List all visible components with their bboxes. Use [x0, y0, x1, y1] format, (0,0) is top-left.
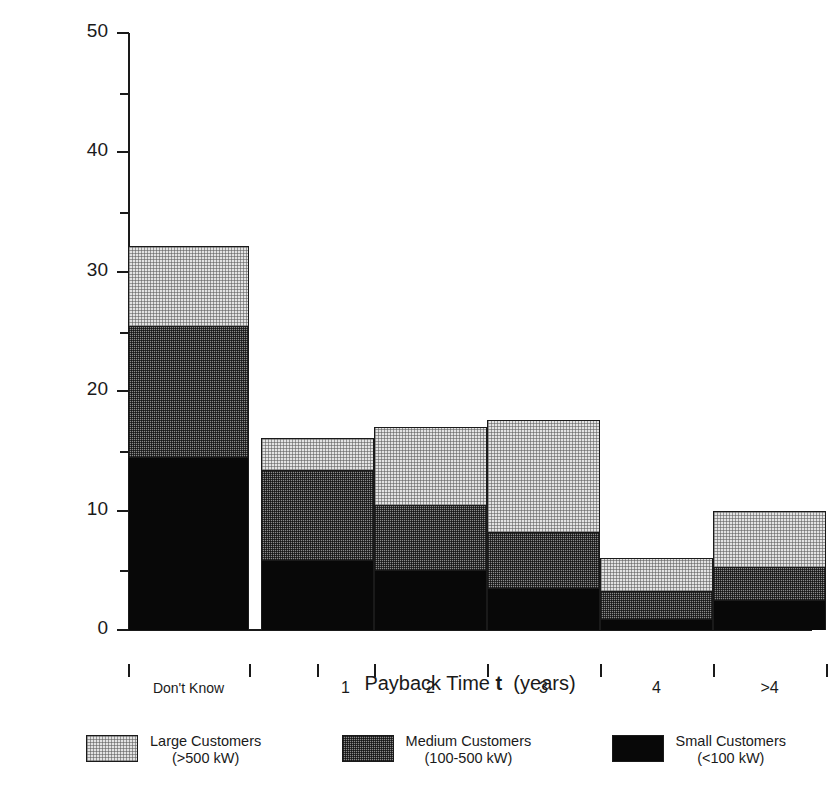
bar-year-3[interactable]	[487, 420, 600, 630]
legend-sublabel-medium: (100-500 kW)	[406, 750, 532, 767]
chart-legend: Large Customers (>500 kW) Medium Custome…	[86, 733, 786, 781]
bar-year-2[interactable]	[374, 427, 487, 630]
segment-medium-year-gt4	[713, 567, 826, 600]
segment-medium-year-4	[600, 591, 713, 620]
bar-year-1[interactable]	[261, 438, 374, 630]
y-tick-label-10: 10	[87, 498, 108, 520]
legend-sublabel-large: (>500 kW)	[150, 750, 261, 767]
segment-medium-dont-know	[128, 326, 249, 457]
x-axis-title: Payback Time t (years)	[128, 672, 812, 695]
legend-label-small: Small Customers	[676, 733, 786, 750]
small-swatch-icon	[612, 735, 664, 762]
segment-small-year-3	[487, 588, 600, 630]
segment-medium-year-3	[487, 532, 600, 588]
bar-dont-know[interactable]	[128, 246, 249, 631]
y-tick-label-50: 50	[87, 20, 108, 42]
legend-label-small-group: Small Customers (<100 kW)	[676, 733, 786, 767]
segment-small-year-gt4	[713, 600, 826, 630]
segment-large-dont-know	[128, 246, 249, 326]
segment-small-year-4	[600, 619, 713, 630]
y-tick-50: 50	[117, 32, 129, 34]
medium-swatch-icon	[342, 735, 394, 762]
legend-label-medium: Medium Customers	[406, 733, 532, 750]
y-tick-label-20: 20	[87, 378, 108, 400]
segment-medium-year-2	[374, 505, 487, 571]
legend-item-large[interactable]: Large Customers (>500 kW)	[86, 733, 261, 767]
plot-area: 50 40 30 20 10 0	[128, 33, 810, 630]
x-axis-title-units: (years)	[513, 672, 575, 694]
legend-item-medium[interactable]: Medium Customers (100-500 kW)	[342, 733, 532, 767]
segment-large-year-3	[487, 420, 600, 532]
segment-small-dont-know	[128, 457, 249, 630]
y-tick-label-30: 30	[87, 259, 108, 281]
segment-large-year-gt4	[713, 511, 826, 567]
segment-small-year-2	[374, 570, 487, 630]
y-tick-45	[120, 93, 129, 95]
legend-label-large-group: Large Customers (>500 kW)	[150, 733, 261, 767]
x-axis-title-emphasis: t	[496, 672, 503, 694]
legend-item-small[interactable]: Small Customers (<100 kW)	[612, 733, 786, 767]
bar-year-gt4[interactable]	[713, 511, 826, 630]
segment-large-year-4	[600, 558, 713, 590]
x-axis-title-text: Payback Time	[364, 672, 490, 694]
large-swatch-icon	[86, 735, 138, 762]
segment-medium-year-1	[261, 470, 374, 560]
legend-sublabel-small: (<100 kW)	[676, 750, 786, 767]
segment-large-year-2	[374, 427, 487, 505]
segment-small-year-1	[261, 560, 374, 630]
y-tick-40: 40	[117, 151, 129, 153]
y-tick-label-0: 0	[97, 617, 108, 639]
y-tick-label-40: 40	[87, 139, 108, 161]
segment-large-year-1	[261, 438, 374, 470]
bar-year-4[interactable]	[600, 558, 713, 630]
y-tick-35	[120, 212, 129, 214]
legend-label-medium-group: Medium Customers (100-500 kW)	[406, 733, 532, 767]
legend-label-large: Large Customers	[150, 733, 261, 750]
